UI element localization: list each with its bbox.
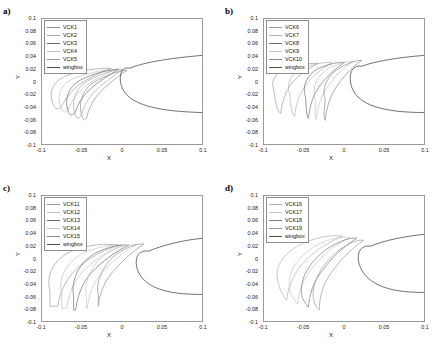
xtick-label: 0.05 — [369, 147, 399, 153]
legend-item[interactable]: VCK3 — [47, 39, 83, 47]
subplot-b-xlabel: X — [329, 155, 333, 161]
legend-swatch — [269, 35, 282, 36]
ytick-label: -0.02 — [0, 91, 36, 97]
legend-label: wingbox — [285, 63, 305, 71]
legend-label: VCK15 — [63, 232, 80, 240]
ytick-label: 0.1 — [222, 15, 258, 21]
ytick-label: 0.08 — [0, 205, 36, 211]
legend-label: VCK8 — [285, 39, 299, 47]
subplot-c: c) 0.1 0.08 0.06 0.04 0.02 0 -0.02 -0.04… — [0, 177, 222, 354]
legend-swatch — [269, 27, 282, 28]
legend-item[interactable]: wingbox — [47, 240, 83, 248]
ytick-label: 0.1 — [0, 192, 36, 198]
legend-item[interactable]: VCK14 — [47, 224, 83, 232]
xtick-label: 0.05 — [147, 324, 177, 330]
ytick-label: -0.06 — [0, 294, 36, 300]
ytick-label: -0.08 — [222, 306, 258, 312]
ytick-label: 0.08 — [222, 28, 258, 34]
xtick-label: -0.1 — [26, 147, 56, 153]
subplot-c-legend: VCK11 VCK12 VCK13 VCK14 VCK15 wingbox — [44, 197, 87, 251]
legend-item[interactable]: VCK12 — [47, 208, 83, 216]
legend-item[interactable]: VCK2 — [47, 31, 83, 39]
legend-swatch — [47, 228, 60, 229]
legend-item[interactable]: VCK4 — [47, 47, 83, 55]
ytick-label: 0.08 — [222, 205, 258, 211]
xtick-label: 0 — [329, 147, 359, 153]
ytick-label: 0.06 — [0, 217, 36, 223]
subplot-a-xlabel: X — [107, 155, 111, 161]
legend-label: VCK9 — [285, 47, 299, 55]
legend-label: VCK1 — [63, 23, 77, 31]
legend-label: wingbox — [63, 240, 83, 248]
xtick-label: -0.1 — [248, 147, 278, 153]
ytick-label: 0.06 — [222, 40, 258, 46]
legend-item[interactable]: VCK17 — [269, 208, 305, 216]
legend-label: VCK12 — [63, 208, 80, 216]
legend-label: wingbox — [63, 63, 83, 71]
legend-item[interactable]: VCK9 — [269, 47, 305, 55]
xtick-label: 0.1 — [410, 147, 440, 153]
legend-item[interactable]: wingbox — [269, 63, 305, 71]
xtick-label: -0.05 — [66, 324, 96, 330]
ytick-label: -0.06 — [222, 117, 258, 123]
legend-swatch — [47, 67, 60, 68]
xtick-label: 0.1 — [188, 147, 218, 153]
ytick-label: 0.04 — [0, 53, 36, 59]
xtick-label: -0.05 — [288, 324, 318, 330]
legend-label: VCK14 — [63, 224, 80, 232]
xtick-label: -0.1 — [26, 324, 56, 330]
ytick-label: 0.02 — [0, 66, 36, 72]
legend-item[interactable]: VCK7 — [269, 31, 305, 39]
ytick-label: -0.08 — [0, 306, 36, 312]
legend-item[interactable]: VCK16 — [269, 200, 305, 208]
legend-swatch — [269, 43, 282, 44]
legend-item[interactable]: VCK5 — [47, 55, 83, 63]
xtick-label: 0 — [107, 324, 137, 330]
legend-label: VCK4 — [63, 47, 77, 55]
ytick-label: 0.06 — [222, 217, 258, 223]
legend-swatch — [269, 220, 282, 221]
xtick-label: 0 — [107, 147, 137, 153]
ytick-label: -0.02 — [222, 268, 258, 274]
legend-item[interactable]: VCK8 — [269, 39, 305, 47]
legend-item[interactable]: VCK10 — [269, 55, 305, 63]
legend-swatch — [47, 35, 60, 36]
subplot-d-ylabel: Y — [237, 252, 243, 256]
legend-label: VCK7 — [285, 31, 299, 39]
legend-swatch — [47, 236, 60, 237]
legend-label: VCK13 — [63, 216, 80, 224]
legend-swatch — [47, 204, 60, 205]
legend-item[interactable]: VCK13 — [47, 216, 83, 224]
legend-item[interactable]: VCK11 — [47, 200, 83, 208]
subplot-a: a) 0.1 0.08 0.06 0.04 0.02 0 -0.02 -0.04… — [0, 0, 222, 177]
legend-swatch — [269, 51, 282, 52]
ytick-label: 0 — [222, 79, 258, 85]
legend-item[interactable]: wingbox — [269, 232, 305, 240]
legend-item[interactable]: wingbox — [47, 63, 83, 71]
figure-canvas: a) 0.1 0.08 0.06 0.04 0.02 0 -0.02 -0.04… — [0, 0, 444, 354]
legend-swatch — [47, 244, 60, 245]
legend-item[interactable]: VCK1 — [47, 23, 83, 31]
xtick-label: 0.1 — [410, 324, 440, 330]
subplot-a-legend: VCK1 VCK2 VCK3 VCK4 VCK5 wingbox — [44, 20, 87, 74]
ytick-label: 0.04 — [222, 230, 258, 236]
legend-item[interactable]: VCK6 — [269, 23, 305, 31]
ytick-label: 0.1 — [0, 15, 36, 21]
legend-swatch — [269, 212, 282, 213]
subplot-c-ylabel: Y — [15, 252, 21, 256]
legend-label: VCK3 — [63, 39, 77, 47]
legend-item[interactable]: VCK19 — [269, 224, 305, 232]
ytick-label: 0.08 — [0, 28, 36, 34]
ytick-label: 0.06 — [0, 40, 36, 46]
subplot-b-ylabel: Y — [237, 75, 243, 79]
legend-item[interactable]: VCK15 — [47, 232, 83, 240]
xtick-label: 0.05 — [147, 147, 177, 153]
legend-label: wingbox — [285, 232, 305, 240]
legend-label: VCK2 — [63, 31, 77, 39]
legend-item[interactable]: VCK18 — [269, 216, 305, 224]
ytick-label: -0.04 — [222, 281, 258, 287]
ytick-label: 0 — [0, 79, 36, 85]
legend-swatch — [47, 43, 60, 44]
legend-swatch — [269, 59, 282, 60]
subplot-d-legend: VCK16 VCK17 VCK18 VCK19 wingbox — [266, 197, 309, 243]
